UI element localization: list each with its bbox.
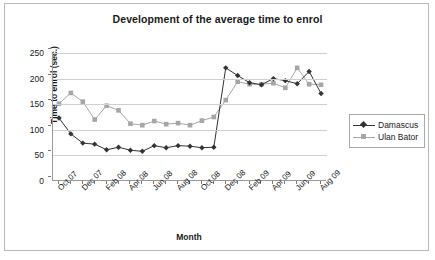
y-tick-label: 200 (30, 74, 44, 84)
legend-label: Damascus (375, 120, 418, 130)
series-line-ulan-bator (59, 68, 321, 125)
data-point (283, 86, 288, 91)
data-point (199, 145, 204, 150)
plot-area (52, 53, 326, 181)
y-tick-mark (48, 48, 51, 49)
legend-item-damascus[interactable]: Damascus (353, 119, 421, 131)
data-point (140, 149, 145, 154)
data-point (211, 145, 216, 150)
data-point (307, 82, 312, 87)
data-point (116, 145, 121, 150)
y-axis-tick-labels: 050100150200250 (5, 48, 48, 188)
chart-container: Development of the average time to enrol… (4, 3, 429, 251)
gridline (53, 79, 327, 80)
gridline (53, 130, 327, 131)
data-point (163, 145, 168, 150)
data-point (104, 147, 109, 152)
y-tick-mark (48, 74, 51, 75)
data-point (128, 121, 133, 126)
chart-title: Development of the average time to enrol (5, 13, 430, 25)
y-tick-label: 50 (35, 150, 44, 160)
gridline (53, 104, 327, 105)
data-point (319, 82, 324, 87)
y-tick-label: 0 (39, 176, 44, 186)
legend-swatch-square-icon (353, 132, 375, 142)
series-lines (53, 53, 327, 181)
y-tick-mark (48, 176, 51, 177)
legend-label: Ulan Bator (375, 132, 418, 142)
diamond-marker-icon (360, 121, 367, 128)
gridline (53, 155, 327, 156)
data-point (164, 122, 169, 127)
legend-item-ulan-bator[interactable]: Ulan Bator (353, 131, 421, 143)
y-tick-label: 100 (30, 125, 44, 135)
data-point (235, 73, 240, 78)
data-point (152, 143, 157, 148)
data-point (176, 121, 181, 126)
x-axis-tick-labels: Oct 07Dec 07Feb 08Apr 08Jun 08Aug 08Oct … (52, 181, 332, 231)
data-point (187, 143, 192, 148)
data-point (235, 79, 240, 84)
data-point (69, 91, 74, 96)
series-line-damascus (59, 68, 321, 151)
y-tick-label: 250 (30, 48, 44, 58)
data-point (128, 148, 133, 153)
data-point (92, 141, 97, 146)
data-point (318, 91, 323, 96)
data-point (92, 117, 97, 122)
y-tick-mark (48, 150, 51, 151)
data-point (188, 123, 193, 128)
chart-legend: DamascusUlan Bator (349, 114, 425, 148)
data-point (200, 118, 205, 123)
data-point (223, 65, 228, 70)
y-tick-mark (48, 99, 51, 100)
data-point (175, 143, 180, 148)
y-tick-mark (48, 125, 51, 126)
square-marker-icon (361, 134, 366, 139)
data-point (152, 119, 157, 124)
gridline (53, 53, 327, 54)
legend-swatch-diamond-icon (353, 120, 375, 130)
y-tick-label: 150 (30, 99, 44, 109)
data-point (212, 115, 217, 120)
x-axis-title: Month (52, 232, 326, 242)
data-point (140, 123, 145, 128)
data-point (116, 108, 121, 113)
data-point (223, 98, 228, 103)
data-point (271, 81, 276, 86)
data-point (295, 66, 300, 71)
